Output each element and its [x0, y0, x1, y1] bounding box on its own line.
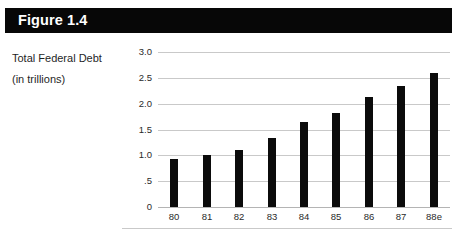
y-tick-label: 2.5 [126, 73, 152, 83]
x-tick-label-85: 85 [321, 211, 351, 222]
y-tick-label: 2.0 [126, 99, 152, 109]
bar-87 [397, 86, 405, 207]
x-tick-label-88e: 88e [419, 211, 449, 222]
y-tick-label: 1.5 [126, 125, 152, 135]
x-tick-label-87: 87 [386, 211, 416, 222]
bar-88e [430, 73, 438, 207]
bar-85 [332, 113, 340, 207]
bar-81 [203, 155, 211, 207]
bar-82 [235, 150, 243, 207]
x-tick-label-86: 86 [354, 211, 384, 222]
x-tick-label-84: 84 [289, 211, 319, 222]
y-tick-label: 0 [126, 202, 152, 212]
gridline-0 [158, 207, 450, 208]
x-tick-label-83: 83 [257, 211, 287, 222]
x-tick-label-82: 82 [224, 211, 254, 222]
y-tick-label: 3.0 [126, 47, 152, 57]
bar-84 [300, 122, 308, 207]
x-tick-label-80: 80 [159, 211, 189, 222]
y-tick-label: .5 [126, 176, 152, 186]
bar-80 [170, 159, 178, 207]
bar-86 [365, 97, 373, 207]
plot-area [158, 52, 450, 207]
y-tick-label: 1.0 [126, 150, 152, 160]
bar-83 [268, 138, 276, 207]
x-tick-label-81: 81 [192, 211, 222, 222]
bottom-divider-rule [122, 228, 452, 229]
bar-chart: 0.51.01.52.02.53.0 808182838485868788e [0, 0, 459, 238]
